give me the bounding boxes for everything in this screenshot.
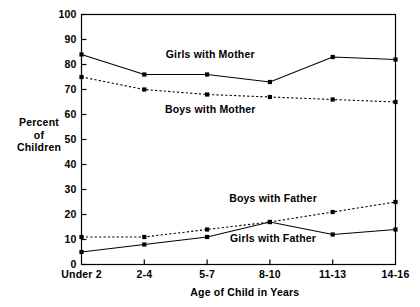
data-point-marker <box>331 55 335 59</box>
data-point-marker <box>142 242 146 246</box>
y-axis-title: Percent of Children <box>6 116 72 154</box>
y-tick-label: 80 <box>64 58 76 70</box>
x-axis-ticks <box>144 260 332 265</box>
line-chart-plot: 0102030405060708090100 Under 22-45-78-10… <box>0 0 420 307</box>
data-point-marker <box>205 72 209 76</box>
y-tick-label: 20 <box>64 208 76 220</box>
x-tick-label: 14-16 <box>382 268 410 280</box>
data-point-marker <box>331 210 335 214</box>
series-annotation-label: Girls with Father <box>230 232 316 244</box>
data-point-marker <box>205 227 209 231</box>
data-point-marker <box>268 220 272 224</box>
data-point-marker <box>79 250 83 254</box>
x-axis-title: Age of Child in Years <box>190 286 299 298</box>
data-point-marker <box>79 52 83 56</box>
y-axis-title-line-1: Percent <box>6 116 72 129</box>
data-point-marker <box>331 232 335 236</box>
series-annotations: Girls with MotherBoys with MotherBoys wi… <box>165 48 317 244</box>
data-point-marker <box>268 95 272 99</box>
data-point-marker <box>268 80 272 84</box>
series-annotation-label: Boys with Father <box>229 192 317 204</box>
y-tick-label: 70 <box>64 83 76 95</box>
y-tick-label: 100 <box>58 8 76 20</box>
y-tick-label: 90 <box>64 33 76 45</box>
data-point-marker <box>393 200 397 204</box>
y-tick-label: 40 <box>64 158 76 170</box>
y-axis-ticks <box>82 15 87 265</box>
data-point-marker <box>142 87 146 91</box>
series-lines <box>82 55 396 253</box>
data-point-marker <box>331 97 335 101</box>
data-point-marker <box>393 100 397 104</box>
x-tick-label: 8-10 <box>259 268 281 280</box>
series-annotation-label: Girls with Mother <box>166 48 255 60</box>
y-tick-label: 30 <box>64 183 76 195</box>
data-point-marker <box>205 235 209 239</box>
y-axis-title-line-2: of <box>6 129 72 142</box>
y-axis-title-line-3: Children <box>6 141 72 154</box>
data-point-marker <box>142 72 146 76</box>
series-markers <box>79 52 397 254</box>
x-tick-label: 11-13 <box>319 268 346 280</box>
x-tick-label: 5-7 <box>199 268 215 280</box>
data-point-marker <box>79 235 83 239</box>
series-annotation-label: Boys with Mother <box>165 103 256 115</box>
data-point-marker <box>205 92 209 96</box>
data-point-marker <box>142 235 146 239</box>
x-axis-tick-labels: Under 22-45-78-1011-1314-16 <box>61 268 409 280</box>
x-tick-label: Under 2 <box>61 268 102 280</box>
data-point-marker <box>79 75 83 79</box>
y-tick-label: 10 <box>64 233 76 245</box>
data-point-marker <box>393 57 397 61</box>
x-tick-label: 2-4 <box>136 268 152 280</box>
chart-container: Percent of Children 01020304050607080901… <box>0 0 420 307</box>
data-point-marker <box>393 227 397 231</box>
series-line-boys-with-mother <box>82 77 396 102</box>
